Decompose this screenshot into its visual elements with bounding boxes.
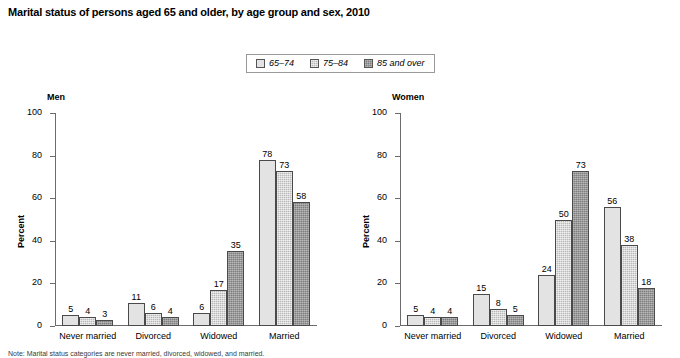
bar[interactable]	[407, 315, 424, 326]
bar[interactable]	[210, 290, 227, 326]
y-axis-tick-label: 20	[32, 277, 42, 288]
legend-item: 65–74	[256, 58, 294, 68]
legend-item: 85 and over	[364, 58, 425, 68]
bar-value-label: 73	[279, 160, 289, 170]
y-axis-tick-label: 0	[382, 320, 387, 331]
bar[interactable]	[441, 317, 458, 326]
bar-value-label: 78	[262, 149, 272, 159]
bar[interactable]	[162, 317, 179, 326]
bar-wrapper: 6	[193, 313, 210, 326]
bar-group: 543	[55, 113, 121, 326]
y-axis-tick-label: 0	[37, 320, 42, 331]
bar-wrapper: 15	[473, 294, 490, 326]
bar-value-label: 56	[607, 196, 617, 206]
bar-wrapper: 73	[276, 171, 293, 326]
y-axis-tick-label: 20	[377, 277, 387, 288]
y-axis-tick-label: 60	[377, 192, 387, 203]
bar-wrapper: 4	[79, 317, 96, 326]
bar-wrapper: 6	[145, 313, 162, 326]
x-category-label: Married	[252, 326, 318, 341]
bar-wrapper: 4	[424, 317, 441, 326]
panel-title: Women	[392, 92, 424, 102]
plot-area: 020406080100 5441585245073563818 Never m…	[400, 113, 662, 326]
panel-title: Men	[47, 92, 65, 102]
bar-group: 1585	[466, 113, 532, 326]
bar[interactable]	[276, 171, 293, 326]
bar-value-label: 15	[476, 283, 486, 293]
chart-panel-men: Men Percent 020406080100 543116461735787…	[0, 92, 340, 358]
legend-item-label: 65–74	[269, 58, 294, 68]
y-axis-tick-label: 100	[27, 107, 42, 118]
bar-value-label: 6	[199, 302, 204, 312]
bar-wrapper: 11	[128, 303, 145, 326]
bar-group: 563818	[597, 113, 663, 326]
bar-value-label: 5	[413, 304, 418, 314]
bar-value-label: 18	[641, 277, 651, 287]
bar-groups: 5441585245073563818	[400, 113, 662, 326]
bar-group: 245073	[531, 113, 597, 326]
bar-value-label: 35	[231, 240, 241, 250]
bar[interactable]	[473, 294, 490, 326]
bar-value-label: 38	[624, 234, 634, 244]
bar-wrapper: 17	[210, 290, 227, 326]
bar-value-label: 58	[296, 191, 306, 201]
legend-swatch-icon	[364, 59, 373, 68]
x-category-label: Married	[597, 326, 663, 341]
y-axis-tick-label: 100	[372, 107, 387, 118]
bar-wrapper: 38	[621, 245, 638, 326]
x-category-label: Never married	[400, 326, 466, 341]
bar-group: 1164	[121, 113, 187, 326]
y-axis-tick-label: 80	[377, 150, 387, 161]
bar[interactable]	[538, 275, 555, 326]
y-axis-tick-label: 40	[32, 235, 42, 246]
bar[interactable]	[507, 315, 524, 326]
bar-value-label: 24	[542, 264, 552, 274]
bar-wrapper: 5	[507, 315, 524, 326]
bar-wrapper: 50	[555, 220, 572, 327]
x-category-label: Divorced	[466, 326, 532, 341]
bar-value-label: 3	[102, 309, 107, 319]
legend-item-label: 85 and over	[377, 58, 425, 68]
bar-value-label: 73	[576, 160, 586, 170]
bar[interactable]	[128, 303, 145, 326]
chart-legend: 65–74 75–84 85 and over	[246, 54, 435, 73]
x-category-label: Widowed	[186, 326, 252, 341]
chart-panel-women: Women Percent 020406080100 5441585245073…	[340, 92, 680, 358]
bar-wrapper: 58	[293, 202, 310, 326]
bar-wrapper: 24	[538, 275, 555, 326]
legend-item-label: 75–84	[323, 58, 348, 68]
bar[interactable]	[490, 309, 507, 326]
footnote: Note: Marital status categories are neve…	[8, 350, 264, 357]
bar-value-label: 4	[447, 306, 452, 316]
bar[interactable]	[193, 313, 210, 326]
bar[interactable]	[604, 207, 621, 326]
bar-wrapper: 18	[638, 288, 655, 326]
x-category-label: Divorced	[121, 326, 187, 341]
bar-value-label: 8	[496, 298, 501, 308]
y-axis-label: Percent	[361, 215, 371, 248]
bar[interactable]	[293, 202, 310, 326]
bar[interactable]	[259, 160, 276, 326]
bar[interactable]	[62, 315, 79, 326]
bar-value-label: 50	[559, 209, 569, 219]
bar[interactable]	[621, 245, 638, 326]
bar-wrapper: 4	[441, 317, 458, 326]
bar-value-label: 4	[168, 306, 173, 316]
y-axis-tick-label: 40	[377, 235, 387, 246]
bar-value-label: 4	[85, 306, 90, 316]
bar-group: 544	[400, 113, 466, 326]
bar[interactable]	[79, 317, 96, 326]
x-category-label: Widowed	[531, 326, 597, 341]
bar-value-label: 11	[132, 292, 141, 302]
bar-value-label: 17	[214, 279, 224, 289]
bar[interactable]	[638, 288, 655, 326]
bar[interactable]	[572, 171, 589, 326]
bar[interactable]	[227, 251, 244, 326]
x-category-row: Never marriedDivorcedWidowedMarried	[400, 326, 662, 341]
legend-swatch-icon	[256, 59, 265, 68]
y-axis-label: Percent	[16, 215, 26, 248]
bar-value-label: 5	[68, 304, 73, 314]
bar[interactable]	[424, 317, 441, 326]
bar[interactable]	[145, 313, 162, 326]
bar[interactable]	[555, 220, 572, 327]
